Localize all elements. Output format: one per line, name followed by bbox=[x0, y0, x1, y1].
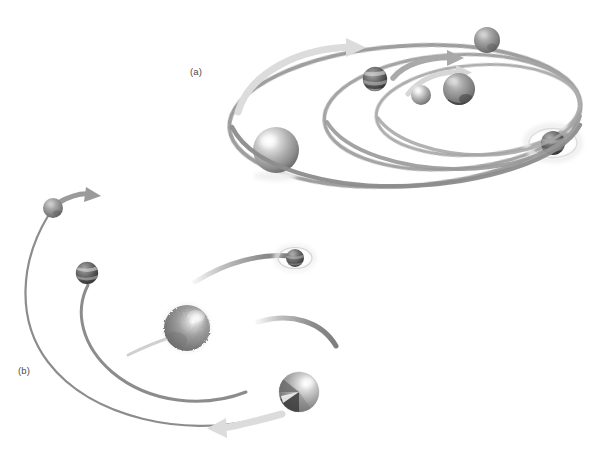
outgoing-arc bbox=[258, 318, 336, 346]
escape-arrow-upper-left bbox=[58, 187, 101, 203]
orbital-diagram-svg bbox=[0, 0, 609, 464]
quadrant-planet-b bbox=[279, 372, 319, 412]
outer-arc bbox=[25, 216, 252, 426]
banded-planet-b bbox=[72, 259, 100, 284]
middle-arc bbox=[81, 285, 246, 401]
panel-a-group bbox=[225, 27, 586, 198]
upper-planet-a bbox=[474, 27, 500, 53]
textured-planet-a bbox=[443, 73, 475, 109]
outer-orbit-arrow bbox=[238, 38, 366, 112]
halo-planet-b bbox=[285, 249, 305, 267]
figure-canvas: (a) (b) bbox=[0, 0, 609, 464]
panel-b-group bbox=[25, 187, 336, 438]
panel-label-b: (b) bbox=[18, 365, 30, 376]
escaping-planet-b bbox=[43, 198, 63, 218]
panel-a-arrows bbox=[238, 38, 472, 112]
panel-b-bodies bbox=[43, 198, 319, 412]
escape-arrow-lower bbox=[207, 414, 282, 438]
panel-label-a: (a) bbox=[190, 66, 202, 77]
small-planet-a bbox=[411, 85, 431, 105]
central-star-b bbox=[163, 304, 211, 352]
